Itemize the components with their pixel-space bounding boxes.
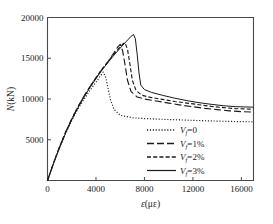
x-tick-label: 0 [45, 184, 50, 194]
x-tick-label: 16000 [230, 184, 253, 194]
line-chart: 0400080001200016000 5000100001500020000 … [0, 0, 273, 224]
chart-figure: 0400080001200016000 5000100001500020000 … [0, 0, 273, 224]
y-tick-label: 15000 [21, 53, 44, 63]
y-tick-label: 5000 [26, 135, 45, 145]
x-tick-label: 12000 [182, 184, 205, 194]
y-tick-label: 20000 [21, 13, 44, 23]
legend-label: Vf=0 [180, 125, 197, 136]
x-axis-title: ε(με) [141, 199, 160, 210]
legend-label: Vf=2% [180, 152, 205, 163]
legend-label: Vf=1% [180, 139, 205, 150]
x-tick-label: 4000 [87, 184, 106, 194]
legend-label: Vf=3% [180, 166, 205, 177]
x-tick-label: 8000 [135, 184, 154, 194]
y-tick-label: 10000 [21, 94, 44, 104]
y-axis-title: N(kN) [6, 87, 17, 112]
